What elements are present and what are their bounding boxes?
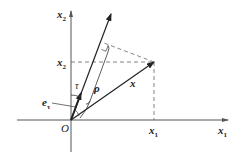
projection-line	[104, 43, 154, 62]
vector-x	[71, 62, 154, 120]
rho-label: ρ	[93, 82, 100, 94]
tau-angle-label: τ	[75, 80, 79, 91]
right-angle-mark	[102, 45, 109, 51]
vector-x-label: x	[129, 77, 136, 89]
e-tau-leader	[52, 103, 76, 107]
e-tau-label: eτ	[42, 96, 51, 111]
x1-tick-label: x1	[148, 124, 159, 139]
projection-diagram: x2 x2 τ ρ x eτ O x1 x1	[0, 0, 241, 159]
origin-label: O	[61, 122, 69, 134]
x2-tick-label: x2	[56, 56, 67, 71]
tau-angle-arc	[71, 95, 80, 97]
x2-axis-label: x2	[56, 8, 67, 23]
x1-axis-label: x1	[217, 124, 228, 139]
diagram-svg: x2 x2 τ ρ x eτ O x1 x1	[0, 0, 241, 159]
